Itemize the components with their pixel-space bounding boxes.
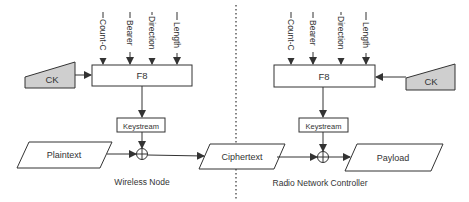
right-f8-label: F8 <box>318 71 329 82</box>
f8-encryption-diagram: Count-C Bearer Direction Length CK F8 <box>0 0 469 202</box>
right-input-direction: Direction <box>336 12 346 64</box>
left-ck-block: CK <box>25 62 75 88</box>
right-input-length: Length <box>361 12 371 64</box>
wireless-node-label: Wireless Node <box>114 177 170 187</box>
ciphertext-label: Ciphertext <box>221 152 263 162</box>
left-input-label: Bearer <box>125 20 135 46</box>
left-f8-block: F8 <box>92 65 192 86</box>
right-ck-block: CK <box>406 64 455 90</box>
right-input-label: Bearer <box>308 20 318 46</box>
left-f8-label: F8 <box>136 70 147 81</box>
ciphertext-block: Ciphertext <box>199 144 285 169</box>
right-input-label: Count-C <box>286 19 296 51</box>
payload-block: Payload <box>345 144 443 171</box>
left-input-label: Length <box>172 22 182 48</box>
plaintext-label: Plaintext <box>47 150 82 160</box>
right-input-label: Direction <box>336 16 346 50</box>
plaintext-block: Plaintext <box>17 142 112 168</box>
right-ck-label: CK <box>424 76 438 87</box>
rnc-label: Radio Network Controller <box>273 178 368 188</box>
left-keystream-block: Keystream <box>117 118 165 132</box>
left-input-label: Count-C <box>98 19 108 51</box>
left-input-label: Direction <box>147 16 157 50</box>
payload-label: Payload <box>377 153 410 163</box>
right-xor-icon <box>318 152 329 163</box>
rnc-section: Count-C Bearer Direction Length F8 CK <box>273 12 455 188</box>
left-input-count-c: Count-C <box>98 12 108 64</box>
right-keystream-block: Keystream <box>299 118 348 132</box>
left-input-bearer: Bearer <box>125 12 135 64</box>
right-f8-block: F8 <box>274 65 375 87</box>
left-ck-label: CK <box>45 74 59 85</box>
right-input-bearer: Bearer <box>308 12 318 64</box>
left-input-length: Length <box>172 12 182 64</box>
left-input-direction: Direction <box>147 12 157 64</box>
right-input-label: Length <box>361 22 371 48</box>
wireless-node-section: Count-C Bearer Direction Length CK F8 <box>17 12 204 187</box>
left-xor-icon <box>137 149 148 160</box>
right-input-count-c: Count-C <box>286 12 296 64</box>
left-keystream-label: Keystream <box>123 122 159 131</box>
right-keystream-label: Keystream <box>306 122 342 131</box>
